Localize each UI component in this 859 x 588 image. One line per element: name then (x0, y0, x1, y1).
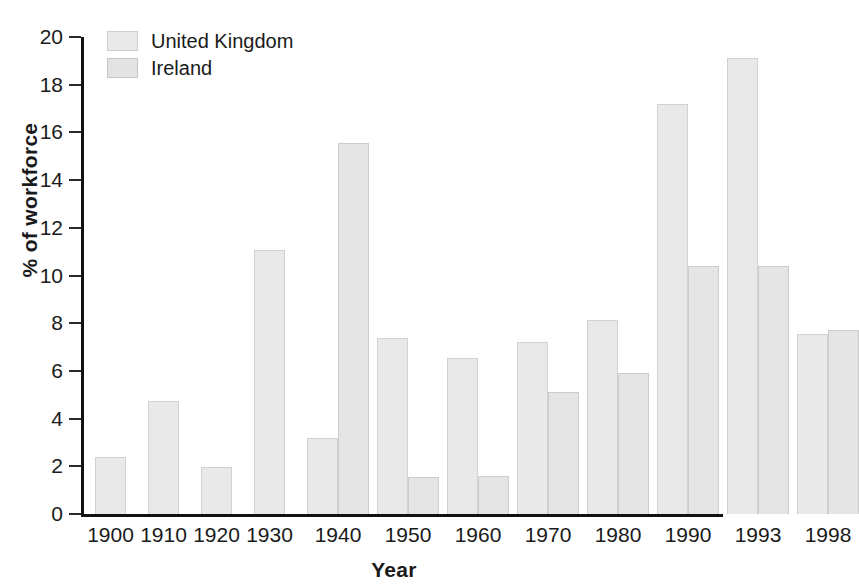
y-axis-tick (69, 322, 81, 324)
y-axis-tick-label: 14 (17, 169, 63, 190)
bar-uk-1930 (254, 250, 285, 514)
y-axis-tick (69, 84, 81, 86)
y-axis-tick-label: 12 (17, 217, 63, 238)
bar-uk-1980 (587, 320, 618, 514)
legend-item: United Kingdom (107, 27, 357, 54)
x-axis-tick-label: 1900 (81, 523, 141, 547)
uk-swatch (107, 31, 138, 51)
bar-uk-1950 (377, 338, 408, 514)
bar-uk-1920 (201, 467, 232, 514)
y-axis-tick (69, 465, 81, 467)
x-axis-tick-label: 1990 (658, 523, 718, 547)
bar-uk-1998 (797, 334, 828, 514)
y-axis-tick-label: 6 (17, 360, 63, 381)
bar-uk-1960 (447, 358, 478, 514)
x-axis-tick-label: 1950 (378, 523, 438, 547)
y-axis-tick-label: 4 (17, 408, 63, 429)
y-axis-tick-label: 0 (17, 503, 63, 524)
bar-ireland-1960 (478, 476, 509, 514)
bar-uk-1940 (307, 438, 338, 514)
y-axis-tick (69, 227, 81, 229)
x-axis-tick-label: 1920 (187, 523, 247, 547)
y-axis-tick (69, 131, 81, 133)
x-axis-tick-label: 1930 (240, 523, 300, 547)
x-axis-tick-label: 1970 (518, 523, 578, 547)
y-axis-tick (69, 370, 81, 372)
bar-uk-1990 (657, 104, 688, 514)
bar-uk-1910 (148, 401, 179, 514)
bar-ireland-1950 (408, 477, 439, 514)
y-axis-tick-label: 8 (17, 312, 63, 333)
y-axis-tick (69, 36, 81, 38)
y-axis-tick-label: 16 (17, 121, 63, 142)
x-axis-tick-label: 1960 (448, 523, 508, 547)
bar-ireland-1980 (618, 373, 649, 514)
legend-label: United Kingdom (151, 31, 293, 51)
x-axis-tick-label: 1980 (588, 523, 648, 547)
y-axis-tick-label: 18 (17, 74, 63, 95)
legend-label: Ireland (151, 58, 212, 78)
bar-ireland-1990 (688, 266, 719, 514)
y-axis-line (81, 37, 84, 517)
x-axis-tick-label: 1998 (798, 523, 858, 547)
y-axis-tick-label: 20 (17, 26, 63, 47)
x-axis-tick-label: 1940 (308, 523, 368, 547)
x-axis-tick-label: 1910 (134, 523, 194, 547)
bar-uk-1993 (727, 58, 758, 514)
bar-ireland-1970 (548, 392, 579, 514)
legend-item: Ireland (107, 54, 357, 81)
y-axis-tick (69, 275, 81, 277)
y-axis-tick (69, 418, 81, 420)
bar-uk-1900 (95, 457, 126, 514)
bar-ireland-1993 (758, 266, 789, 514)
y-axis-tick-label: 10 (17, 265, 63, 286)
bar-uk-1970 (517, 342, 548, 514)
y-axis-tick (69, 513, 81, 515)
plot-area: 02468101214161820 1900191019201930194019… (81, 31, 723, 517)
y-axis-tick (69, 179, 81, 181)
ireland-swatch (107, 58, 138, 78)
y-axis-tick-label: 2 (17, 455, 63, 476)
bar-ireland-1998 (828, 330, 859, 514)
x-axis-tick-label: 1993 (728, 523, 788, 547)
legend: United KingdomIreland (107, 27, 357, 81)
x-axis-title: Year (64, 558, 724, 582)
bar-ireland-1940 (338, 143, 369, 514)
x-axis-line (81, 514, 723, 517)
